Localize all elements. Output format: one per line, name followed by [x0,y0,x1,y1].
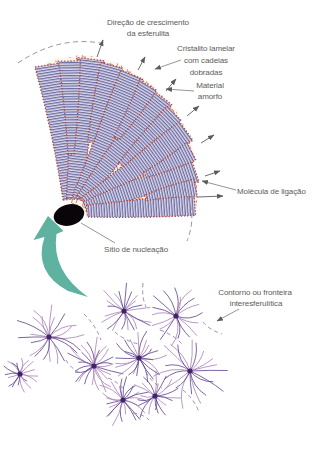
spherulite-center [46,334,51,339]
spherulite-ray [20,374,25,392]
spherulite-ray [139,340,147,358]
interspherulitic-boundary-line [115,332,138,344]
interspherulitic-boundary-line [84,314,101,340]
leader-nucleation-site [81,223,115,243]
label-lamellar-crystallite-line2: com cadeias [184,56,228,65]
interspherulitic-boundary-line [143,283,146,307]
spherulite-cluster [4,283,228,426]
spherulite-center [120,397,125,402]
spherulite-ray [49,337,58,364]
spherulite-ray [176,313,203,318]
label-growth-direction-line2: da esferulita [127,29,170,38]
spherulite-ray [190,340,192,371]
label-tie-molecule: Molécula de ligação [237,187,306,196]
spherulite [4,358,38,392]
label-lamellar-crystallite-line1: Cristalito lamelar [177,44,235,53]
spherulite-ray [155,388,178,396]
lamellar-ribbons [35,57,199,222]
spherulite [17,305,84,364]
spherulite-center [91,363,96,368]
spherulite-ray [18,337,49,338]
leader-lamellar-crystallite [155,60,181,69]
spherulite-center [17,371,22,376]
spherulite-center [152,393,157,398]
spherulite-ray [123,400,136,420]
spherulite-ray [107,311,124,329]
leader-amorphous-material [166,89,194,91]
growth-arrow [198,196,223,197]
spherulite [153,340,227,409]
spherulite-ray [115,358,139,367]
spherulite-ray [176,316,197,336]
label-interspherulitic-boundary-line2: interesferulítica [230,299,283,308]
spherulite-ray [49,337,65,361]
spherulite [152,288,203,346]
growth-arrow [187,106,199,116]
spherulite [115,331,167,382]
spherulite-ray [152,313,176,316]
label-lamellar-crystallite-line3: dobradas [190,68,223,77]
spherulite-ray [30,337,49,356]
spherulite-ray [190,370,228,371]
label-nucleation-site: Sítio de nucleação [104,245,169,254]
spherulite [100,377,149,426]
interspherulitic-boundary-line [203,322,222,334]
spherulite-ray [124,311,151,322]
spherulite-center [173,313,178,318]
spherulite [134,371,181,418]
growth-arrow [205,171,220,176]
spherulite-ray [92,366,94,385]
spherulite-ray [94,366,111,387]
growth-arrow [201,135,214,143]
spherulite-center [187,368,192,373]
spherulite-center [136,355,141,360]
spherulite-ray [139,351,158,358]
growth-sequence-arrow [34,216,89,297]
label-growth-direction-line1: Direção de crescimento [107,18,189,27]
growth-arrow [138,57,145,70]
spherulite-ray [82,352,94,366]
spherulite-ray [49,325,76,337]
spherulite [101,283,151,331]
label-interspherulitic-boundary-line1: Contorno ou fronteira [218,288,292,297]
spherulite-ray [123,377,127,401]
leader-interspherulitic-boundary [217,309,239,321]
label-amorphous-material-line1: Material [196,81,224,90]
label-amorphous-material-line2: amorfo [198,92,223,101]
leader-tie-molecule [202,181,236,190]
spherulite-ray [139,331,147,358]
spherulite-center [121,308,126,313]
interspherulitic-boundary-line [183,390,199,412]
spherulite [68,337,124,392]
spherulite-ray [115,358,139,359]
diagram-canvas: Direção de crescimento da esferulita Cri… [0,0,327,453]
spherulite-diagram: Direção de crescimento da esferulita Cri… [0,0,327,453]
spherulite-ray [49,326,72,337]
